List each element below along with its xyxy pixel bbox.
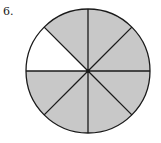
center-dot — [86, 69, 90, 73]
fraction-circle — [0, 0, 161, 143]
